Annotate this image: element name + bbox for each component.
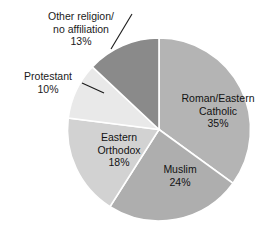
slice-label-protestant-value: 10% [2,83,94,96]
slice-label-muslim: Muslim 24% [142,163,218,188]
slice-label-other-religion: Other religion/ no affiliation 13% [22,10,140,48]
slice-label-catholic-value: 35% [168,117,268,130]
slice-label-protestant: Protestant 10% [2,70,94,95]
slice-label-roman-eastern-catholic: Roman/Eastern Catholic 35% [168,92,268,130]
slice-label-other-religion-line2: no affiliation [22,23,140,36]
slice-label-other-religion-line1: Other religion/ [22,10,140,23]
slice-label-other-religion-value: 13% [22,35,140,48]
pie-chart-figure: Other religion/ no affiliation 13% Prote… [0,0,273,238]
slice-label-muslim-value: 24% [142,176,218,189]
slice-label-catholic-line1: Roman/Eastern [168,92,268,105]
slice-label-catholic-line2: Catholic [168,105,268,118]
slice-label-muslim-line1: Muslim [142,163,218,176]
slice-label-orthodox-line2: Orthodox [78,144,160,157]
slice-label-orthodox-line1: Eastern [78,131,160,144]
slice-label-protestant-line1: Protestant [2,70,94,83]
